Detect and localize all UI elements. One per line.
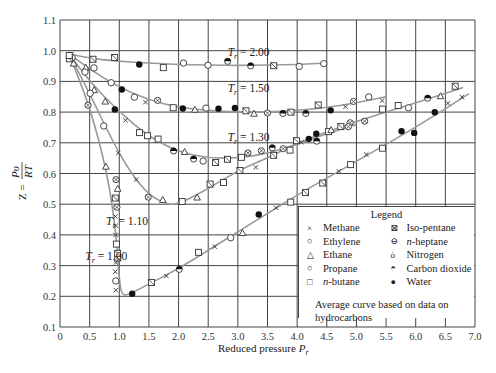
data-point-marker bbox=[136, 61, 142, 67]
data-point-marker bbox=[170, 105, 176, 111]
x-axis-label: Reduced pressure Pr bbox=[218, 342, 309, 357]
x-tick-label: 6.0 bbox=[409, 331, 422, 342]
data-point-marker bbox=[179, 198, 185, 204]
legend-title: Legend bbox=[299, 209, 474, 220]
curve-label: Tr = 1.50 bbox=[228, 82, 270, 97]
data-point-marker bbox=[215, 105, 221, 111]
data-point-marker bbox=[227, 235, 233, 241]
data-point-marker bbox=[327, 107, 333, 113]
data-point-marker bbox=[269, 145, 275, 151]
x-tick-label: 3.5 bbox=[261, 331, 274, 342]
data-point-marker bbox=[112, 54, 118, 60]
data-point-marker bbox=[313, 131, 319, 137]
data-point-marker bbox=[248, 63, 254, 69]
x-tick-label: 2.5 bbox=[202, 331, 215, 342]
legend-label: n-heptane bbox=[407, 236, 448, 247]
data-point-marker bbox=[114, 288, 118, 292]
legend-item: □n-butane bbox=[307, 275, 391, 289]
data-point-marker bbox=[315, 102, 321, 108]
legend-label: Propane bbox=[323, 263, 357, 274]
y-tick-label: 0.9 bbox=[43, 76, 56, 87]
data-point-marker bbox=[232, 105, 238, 111]
data-point-marker bbox=[314, 138, 320, 144]
legend-item: ●Water bbox=[391, 275, 475, 289]
tr-curve bbox=[69, 54, 463, 204]
data-point-marker bbox=[380, 98, 384, 102]
data-point-marker bbox=[155, 136, 161, 142]
legend-marker-icon: ○ bbox=[307, 236, 323, 246]
data-point-marker bbox=[348, 162, 354, 168]
data-point-marker bbox=[205, 62, 211, 68]
legend-column-right: ⊠Iso-pentane⊖n-heptaneȯNitrogen◓Carbon d… bbox=[391, 221, 475, 289]
x-tick-label: 4.0 bbox=[291, 331, 304, 342]
data-point-marker bbox=[196, 249, 202, 255]
data-point-marker bbox=[143, 100, 147, 104]
data-point-marker bbox=[113, 177, 119, 183]
svg-text:RT: RT bbox=[22, 164, 34, 179]
data-point-marker bbox=[271, 63, 277, 69]
legend-item: ○Ethylene bbox=[307, 235, 391, 249]
data-point-marker bbox=[114, 185, 121, 191]
data-point-marker bbox=[288, 109, 294, 115]
data-point-marker bbox=[159, 196, 166, 202]
data-point-marker bbox=[136, 130, 142, 136]
data-point-marker bbox=[366, 94, 372, 100]
legend-marker-icon: △ bbox=[307, 250, 323, 260]
curve-label: Tr = 1.10 bbox=[106, 215, 148, 230]
data-point-marker bbox=[85, 102, 91, 108]
data-point-marker bbox=[129, 290, 135, 296]
data-point-marker bbox=[176, 266, 182, 272]
data-point-marker bbox=[293, 138, 299, 144]
data-point-marker bbox=[254, 165, 258, 169]
data-point-marker bbox=[221, 179, 227, 185]
data-point-marker bbox=[180, 105, 186, 111]
data-point-marker bbox=[345, 124, 351, 130]
data-point-marker bbox=[306, 136, 312, 142]
y-tick-label: 0.7 bbox=[43, 138, 56, 149]
legend-item: ◓Carbon dioxide bbox=[391, 262, 475, 276]
svg-text:Z =: Z = bbox=[16, 184, 28, 200]
data-point-marker bbox=[280, 146, 286, 152]
data-point-marker bbox=[191, 156, 197, 162]
data-point-marker bbox=[123, 118, 127, 122]
legend-item: ⊖n-heptane bbox=[391, 235, 475, 249]
data-point-marker bbox=[288, 199, 294, 205]
data-point-marker bbox=[405, 105, 411, 111]
y-tick-label: 0.2 bbox=[43, 291, 56, 302]
data-point-marker bbox=[280, 110, 286, 116]
data-point-marker bbox=[425, 95, 431, 101]
data-point-marker bbox=[112, 106, 118, 112]
legend: Legend ×Methane○Ethylene△Ethane○Propane□… bbox=[298, 206, 474, 318]
data-point-marker bbox=[207, 181, 213, 187]
data-point-marker bbox=[200, 158, 206, 164]
legend-label: n-butane bbox=[323, 276, 360, 287]
data-point-marker bbox=[160, 65, 166, 71]
y-tick-label: 0.3 bbox=[43, 261, 56, 272]
data-point-marker bbox=[350, 98, 356, 104]
data-point-marker bbox=[103, 163, 110, 169]
data-point-marker bbox=[101, 123, 107, 129]
data-point-marker bbox=[90, 56, 96, 62]
data-point-marker bbox=[225, 156, 231, 162]
legend-item: ○Propane bbox=[307, 262, 391, 276]
legend-marker-icon: ⊖ bbox=[391, 236, 407, 246]
x-tick-label: 1.5 bbox=[142, 331, 155, 342]
data-point-marker bbox=[91, 65, 97, 71]
data-point-marker bbox=[251, 110, 258, 116]
curve-label: Tr = 2.00 bbox=[228, 46, 270, 61]
legend-marker-icon: ⊠ bbox=[391, 223, 407, 233]
y-tick-label: 0.6 bbox=[43, 169, 56, 180]
data-point-marker bbox=[338, 124, 344, 130]
data-point-marker bbox=[243, 108, 249, 114]
data-point-marker bbox=[321, 60, 327, 66]
legend-label: Ethane bbox=[323, 249, 352, 260]
data-point-marker bbox=[113, 270, 117, 274]
data-point-marker bbox=[203, 105, 209, 111]
data-point-marker bbox=[113, 278, 119, 284]
data-point-marker bbox=[411, 130, 417, 136]
legend-marker-icon: × bbox=[307, 223, 323, 233]
data-point-marker bbox=[320, 180, 326, 186]
data-point-marker bbox=[446, 101, 450, 105]
legend-item: △Ethane bbox=[307, 248, 391, 262]
data-point-marker bbox=[395, 103, 401, 109]
